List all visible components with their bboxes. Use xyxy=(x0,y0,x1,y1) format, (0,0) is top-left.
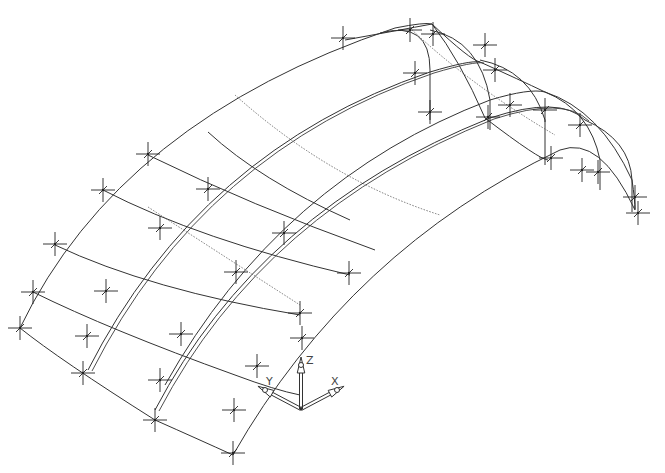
transverse-arc xyxy=(148,155,375,250)
node-marker-icon xyxy=(331,26,355,50)
node-marker-icon xyxy=(626,201,650,225)
longitudinal-arc xyxy=(165,91,545,385)
node-marker-icon xyxy=(288,301,312,325)
node-marker-icon xyxy=(136,142,160,166)
node-marker-icon xyxy=(623,185,647,209)
ucs-icon: ZYX xyxy=(258,354,344,411)
longitudinal-arc xyxy=(20,24,432,329)
longitudinal-arc-offset xyxy=(159,108,589,411)
longitudinal-arc xyxy=(233,148,635,456)
transverse-arc xyxy=(432,24,548,160)
dotted-section-line xyxy=(410,28,555,135)
node-marker-icon xyxy=(91,178,115,202)
node-marker-icon xyxy=(75,324,99,348)
node-marker-icon xyxy=(473,33,497,57)
longitudinal-arc xyxy=(155,107,585,410)
node-marker-icon xyxy=(222,398,246,422)
node-marker-icon xyxy=(418,100,442,124)
node-marker-icon xyxy=(71,361,95,385)
ucs-axis-label: X xyxy=(331,375,339,388)
node-marker-icon xyxy=(43,232,67,256)
ucs-axis-z: Z xyxy=(297,354,314,409)
transverse-arc xyxy=(480,62,635,210)
node-marker-icon xyxy=(143,408,167,432)
end-arch xyxy=(380,30,430,120)
end-arch xyxy=(545,92,600,190)
ucs-axis-label: Y xyxy=(265,375,273,388)
node-marker-icon xyxy=(290,326,314,350)
node-marker-icon xyxy=(221,441,245,465)
node-marker-icon xyxy=(224,260,248,284)
node-marker-icon xyxy=(570,158,594,182)
node-marker-icon xyxy=(148,368,172,392)
transverse-arc xyxy=(55,245,300,315)
ucs-origin xyxy=(300,408,303,411)
node-marker-icon xyxy=(398,18,422,42)
node-marker-icon xyxy=(539,146,563,170)
longitudinal-arcs xyxy=(20,24,635,456)
node-marker-icon xyxy=(272,221,296,245)
node-marker-icon xyxy=(403,61,427,85)
transverse-arcs xyxy=(20,24,635,455)
node-markers xyxy=(8,18,650,465)
transverse-arc xyxy=(20,328,233,455)
node-marker-icon xyxy=(586,160,610,184)
node-marker-icon xyxy=(169,322,193,346)
node-marker-icon xyxy=(533,98,557,122)
ucs-axis-x: X xyxy=(300,375,344,410)
node-marker-icon xyxy=(8,316,32,340)
cad-viewport[interactable]: ZYX xyxy=(0,0,665,473)
node-marker-icon xyxy=(94,279,118,303)
dotted-section-line xyxy=(235,95,440,215)
node-marker-icon xyxy=(568,113,592,137)
node-marker-icon xyxy=(21,280,45,304)
node-marker-icon xyxy=(337,261,361,285)
end-arches xyxy=(380,30,632,212)
ucs-axis-label: Z xyxy=(306,354,314,367)
